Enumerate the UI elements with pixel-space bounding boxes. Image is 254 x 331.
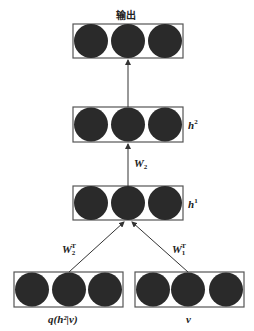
unit-circle bbox=[15, 273, 49, 307]
unit-circle bbox=[74, 186, 108, 220]
layer-h2 bbox=[73, 107, 183, 142]
layer-output bbox=[73, 24, 183, 58]
unit-circle bbox=[148, 186, 182, 220]
unit-circle bbox=[74, 24, 108, 58]
network-diagram bbox=[0, 0, 254, 331]
unit-circle bbox=[148, 24, 182, 58]
unit-circle bbox=[111, 24, 145, 58]
h2-label: h2 bbox=[188, 119, 198, 131]
unit-circle bbox=[209, 273, 243, 307]
unit-circle bbox=[148, 108, 182, 142]
arrow-q-to-h1 bbox=[69, 222, 124, 272]
unit-circle bbox=[136, 273, 170, 307]
q-label: q(h²|v) bbox=[48, 314, 78, 325]
unit-circle bbox=[111, 186, 145, 220]
w1t-label: W1T bbox=[172, 243, 186, 257]
layer-v bbox=[135, 272, 244, 307]
w2-label: W2 bbox=[134, 158, 147, 171]
h1-label: h1 bbox=[188, 198, 198, 210]
v-label: v bbox=[186, 314, 191, 325]
unit-circle bbox=[171, 273, 205, 307]
w2t-label: W2T bbox=[62, 243, 76, 257]
layer-h1 bbox=[73, 186, 183, 220]
unit-circle bbox=[52, 273, 86, 307]
layer-q bbox=[14, 272, 123, 307]
unit-circle bbox=[111, 108, 145, 142]
unit-circle bbox=[74, 108, 108, 142]
output-title: 输出 bbox=[116, 7, 136, 22]
unit-circle bbox=[88, 273, 122, 307]
